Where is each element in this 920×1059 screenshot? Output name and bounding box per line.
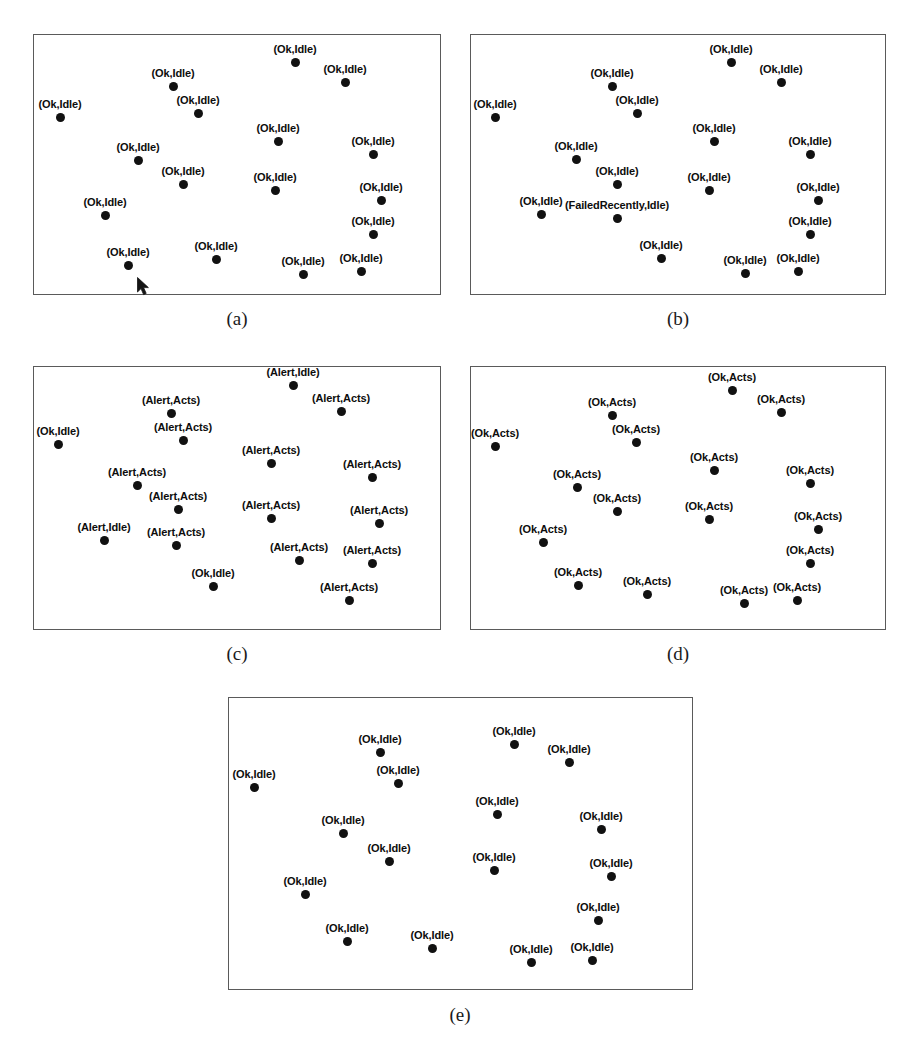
node-state-label: (Ok,Acts) (685, 501, 733, 512)
node-state-label: (Ok,Idle) (595, 166, 638, 177)
node-dot-icon (169, 82, 178, 91)
node-dot-icon (375, 519, 384, 528)
node-state-label: (Alert,Acts) (242, 500, 300, 511)
node-dot-icon (267, 459, 276, 468)
node-state-label: (Alert,Acts) (270, 542, 328, 553)
node-state-label: (Ok,Idle) (323, 64, 366, 75)
node-dot-icon (369, 150, 378, 159)
node-state-label: (Ok,Idle) (589, 858, 632, 869)
node-dot-icon (740, 599, 749, 608)
node-dot-icon (301, 890, 310, 899)
node-state-label: (Ok,Idle) (547, 744, 590, 755)
node-state-label: (Ok,Acts) (471, 428, 519, 439)
node-state-label: (Ok,Idle) (509, 944, 552, 955)
panel-caption-e: (e) (420, 1004, 500, 1026)
node-dot-icon (565, 758, 574, 767)
node-state-label: (Ok,Idle) (281, 256, 324, 267)
node-dot-icon (777, 408, 786, 417)
plot-area-d: (Ok,Acts)(Ok,Acts)(Ok,Acts)(Ok,Acts)(Ok,… (471, 367, 885, 629)
node-state-label: (Ok,Acts) (720, 585, 768, 596)
panel-b: (Ok,Idle)(Ok,Idle)(Ok,Idle)(Ok,Idle)(Ok,… (470, 34, 886, 295)
node-state-label: (Ok,Idle) (376, 765, 419, 776)
panel-c: (Ok,Idle)(Alert,Acts)(Alert,Acts)(Alert,… (33, 366, 441, 630)
node-state-label: (Ok,Idle) (273, 44, 316, 55)
node-state-label: (Ok,Idle) (776, 253, 819, 264)
panel-caption-b: (b) (638, 308, 718, 330)
node-state-label: (Alert,Acts) (312, 393, 370, 404)
node-state-label: (Ok,Idle) (519, 196, 562, 207)
node-state-label: (Ok,Idle) (176, 95, 219, 106)
panel-a: (Ok,Idle)(Ok,Idle)(Ok,Idle)(Ok,Idle)(Ok,… (33, 34, 441, 295)
node-dot-icon (657, 254, 666, 263)
node-state-label: (Ok,Idle) (367, 843, 410, 854)
node-dot-icon (814, 196, 823, 205)
node-state-label: (Ok,Idle) (687, 172, 730, 183)
node-state-label: (Ok,Idle) (570, 942, 613, 953)
node-state-label: (Alert,Acts) (142, 395, 200, 406)
node-dot-icon (613, 180, 622, 189)
node-state-label: (Alert,Acts) (149, 491, 207, 502)
node-state-label: (Ok,Idle) (639, 240, 682, 251)
node-state-label: (Ok,Idle) (325, 923, 368, 934)
node-dot-icon (194, 109, 203, 118)
node-dot-icon (588, 956, 597, 965)
node-dot-icon (179, 180, 188, 189)
node-dot-icon (574, 581, 583, 590)
node-state-label: (Ok,Idle) (116, 142, 159, 153)
node-state-label: (Ok,Idle) (283, 876, 326, 887)
node-state-label: (Alert,Acts) (343, 545, 401, 556)
node-state-label: (Ok,Idle) (256, 123, 299, 134)
node-dot-icon (337, 407, 346, 416)
node-dot-icon (339, 829, 348, 838)
node-dot-icon (357, 267, 366, 276)
node-state-label: (Ok,Acts) (612, 424, 660, 435)
node-dot-icon (291, 58, 300, 67)
panel-e: (Ok,Idle)(Ok,Idle)(Ok,Idle)(Ok,Idle)(Ok,… (228, 697, 693, 990)
node-dot-icon (594, 916, 603, 925)
node-dot-icon (209, 582, 218, 591)
node-dot-icon (377, 196, 386, 205)
figure-root: (Ok,Idle)(Ok,Idle)(Ok,Idle)(Ok,Idle)(Ok,… (0, 0, 920, 1059)
node-dot-icon (794, 267, 803, 276)
node-state-label: (Alert,Acts) (343, 459, 401, 470)
node-state-label: (Ok,Idle) (473, 99, 516, 110)
node-state-label: (Ok,Idle) (232, 769, 275, 780)
node-state-label: (Ok,Idle) (151, 68, 194, 79)
node-dot-icon (710, 466, 719, 475)
node-dot-icon (134, 156, 143, 165)
node-dot-icon (167, 409, 176, 418)
node-state-label: (Ok,Idle) (796, 182, 839, 193)
node-state-label: (Ok,Idle) (788, 136, 831, 147)
node-state-label: (Ok,Idle) (106, 247, 149, 258)
node-state-label: (Ok,Idle) (36, 426, 79, 437)
node-state-label: (Ok,Idle) (492, 726, 535, 737)
node-state-label: (Ok,Idle) (38, 99, 81, 110)
node-dot-icon (491, 442, 500, 451)
node-state-label: (Ok,Idle) (161, 166, 204, 177)
plot-area-e: (Ok,Idle)(Ok,Idle)(Ok,Idle)(Ok,Idle)(Ok,… (229, 698, 692, 989)
mouse-cursor-icon (137, 277, 151, 297)
node-state-label: (Alert,Acts) (242, 445, 300, 456)
node-state-label: (Ok,Idle) (410, 930, 453, 941)
node-dot-icon (728, 386, 737, 395)
node-state-label: (Ok,Acts) (786, 465, 834, 476)
node-state-label: (Ok,Acts) (786, 545, 834, 556)
node-dot-icon (793, 596, 802, 605)
node-dot-icon (428, 944, 437, 953)
node-state-label: (Alert,Acts) (154, 422, 212, 433)
node-state-label: (Ok,Idle) (723, 255, 766, 266)
node-dot-icon (172, 541, 181, 550)
node-dot-icon (179, 436, 188, 445)
node-dot-icon (385, 857, 394, 866)
node-dot-icon (345, 596, 354, 605)
node-state-label: (Ok,Idle) (191, 568, 234, 579)
node-state-label: (Ok,Acts) (773, 582, 821, 593)
node-dot-icon (250, 783, 259, 792)
node-dot-icon (632, 438, 641, 447)
node-state-label: (Ok,Idle) (359, 182, 402, 193)
node-dot-icon (100, 536, 109, 545)
node-dot-icon (705, 186, 714, 195)
node-dot-icon (608, 411, 617, 420)
node-dot-icon (710, 137, 719, 146)
node-dot-icon (54, 440, 63, 449)
